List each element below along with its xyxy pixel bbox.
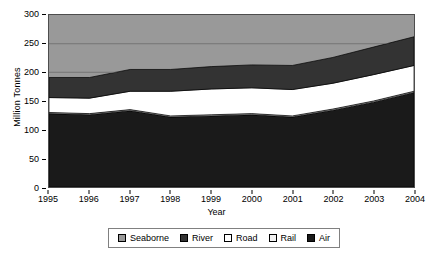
- legend-swatch-icon: [269, 234, 277, 242]
- y-tick-mark: [42, 159, 46, 160]
- x-axis-title: Year: [0, 207, 433, 217]
- legend-label: Seaborne: [130, 233, 169, 243]
- x-tick-mark: [129, 190, 130, 194]
- legend-item-air[interactable]: Air: [307, 233, 330, 243]
- x-tick-label: 1998: [160, 194, 180, 204]
- legend-item-seaborne[interactable]: Seaborne: [118, 233, 169, 243]
- x-tick-mark: [292, 190, 293, 194]
- legend-swatch-icon: [307, 234, 315, 242]
- x-tick-mark: [211, 190, 212, 194]
- legend-item-rail[interactable]: Rail: [269, 233, 297, 243]
- x-tick-mark: [333, 190, 334, 194]
- x-tick-label: 2001: [283, 194, 303, 204]
- y-tick-label: 200: [24, 67, 39, 77]
- legend-item-river[interactable]: River: [180, 233, 213, 243]
- y-tick-label: 50: [29, 154, 39, 164]
- y-tick-mark: [42, 72, 46, 73]
- legend-swatch-icon: [224, 234, 232, 242]
- x-tick-label: 1996: [79, 194, 99, 204]
- legend-label: River: [192, 233, 213, 243]
- legend-label: Road: [236, 233, 258, 243]
- y-tick-mark: [42, 43, 46, 44]
- chart-legend: SeaborneRiverRoadRailAir: [108, 228, 340, 248]
- stacked-area-series: [49, 15, 414, 187]
- x-tick-label: 1999: [201, 194, 221, 204]
- x-tick-mark: [415, 190, 416, 194]
- legend-label: Air: [319, 233, 330, 243]
- y-tick-label: 300: [24, 9, 39, 19]
- y-tick-mark: [42, 130, 46, 131]
- y-tick-label: 100: [24, 125, 39, 135]
- y-tick-mark: [42, 101, 46, 102]
- x-tick-mark: [251, 190, 252, 194]
- x-tick-label: 2000: [242, 194, 262, 204]
- plot-area: [48, 14, 415, 188]
- x-tick-label: 2002: [323, 194, 343, 204]
- x-tick-label: 2003: [364, 194, 384, 204]
- y-axis-labels: 300250200150100500: [0, 0, 46, 202]
- y-tick-mark: [42, 188, 46, 189]
- y-tick-mark: [42, 14, 46, 15]
- x-tick-mark: [48, 190, 49, 194]
- x-tick-label: 1997: [120, 194, 140, 204]
- y-tick-label: 250: [24, 38, 39, 48]
- y-tick-label: 150: [24, 96, 39, 106]
- x-tick-mark: [170, 190, 171, 194]
- legend-swatch-icon: [180, 234, 188, 242]
- x-tick-label: 2004: [405, 194, 425, 204]
- legend-swatch-icon: [118, 234, 126, 242]
- x-tick-mark: [88, 190, 89, 194]
- x-tick-mark: [374, 190, 375, 194]
- x-tick-label: 1995: [38, 194, 58, 204]
- chart-figure: Million Tonnes 300250200150100500 199519…: [0, 0, 433, 260]
- legend-label: Rail: [281, 233, 297, 243]
- legend-item-road[interactable]: Road: [224, 233, 258, 243]
